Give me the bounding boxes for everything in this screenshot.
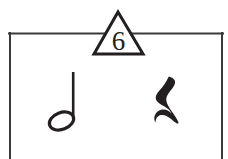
triangle-number-label: 6: [112, 26, 126, 56]
music-notation-figure: 6 Music notation measure exercise ½ note…: [0, 0, 228, 159]
notation-canvas: 6: [0, 0, 228, 159]
